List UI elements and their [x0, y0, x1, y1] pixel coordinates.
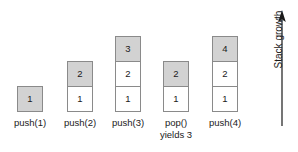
stack-diagram: 1push(1)12push(2)123push(3)12pop()yields… — [0, 0, 298, 152]
stack-cell: 2 — [212, 61, 238, 87]
stack-cells: 12 — [163, 62, 189, 112]
stack-column-label: push(1) — [14, 117, 46, 129]
stack-cells: 123 — [115, 37, 141, 112]
stack-cells: 12 — [67, 62, 93, 112]
stack-column-label-line: push(4) — [209, 117, 241, 129]
stack-cells: 124 — [212, 37, 238, 112]
stack-cell: 1 — [67, 86, 93, 112]
stack-column-pop: 12pop()yields 3 — [163, 62, 189, 112]
stack-cell: 1 — [115, 86, 141, 112]
stack-column-label: pop()yields 3 — [160, 117, 192, 140]
stack-cell: 2 — [163, 61, 189, 87]
stack-growth-label: Stack growth — [273, 0, 284, 90]
stack-column-label-line: yields 3 — [160, 129, 192, 141]
stack-cell: 2 — [115, 61, 141, 87]
stack-cell: 1 — [163, 86, 189, 112]
stack-column-label-line: push(3) — [112, 117, 144, 129]
stack-cells: 1 — [17, 87, 43, 112]
stack-column-label: push(2) — [64, 117, 96, 129]
stack-column-push-4: 124push(4) — [212, 37, 238, 112]
stack-column-label: push(3) — [112, 117, 144, 129]
stack-cell: 1 — [212, 86, 238, 112]
stack-column-push-2: 12push(2) — [67, 62, 93, 112]
stack-column-label: push(4) — [209, 117, 241, 129]
stack-column-label-line: pop() — [160, 117, 192, 129]
stack-cell: 3 — [115, 36, 141, 62]
stack-cell: 1 — [17, 86, 43, 112]
stack-column-push-1: 1push(1) — [17, 87, 43, 112]
stack-column-label-line: push(2) — [64, 117, 96, 129]
stack-column-push-3: 123push(3) — [115, 37, 141, 112]
stack-column-label-line: push(1) — [14, 117, 46, 129]
stack-cell: 4 — [212, 36, 238, 62]
stack-cell: 2 — [67, 61, 93, 87]
stack-growth-indicator: Stack growth — [262, 8, 298, 128]
